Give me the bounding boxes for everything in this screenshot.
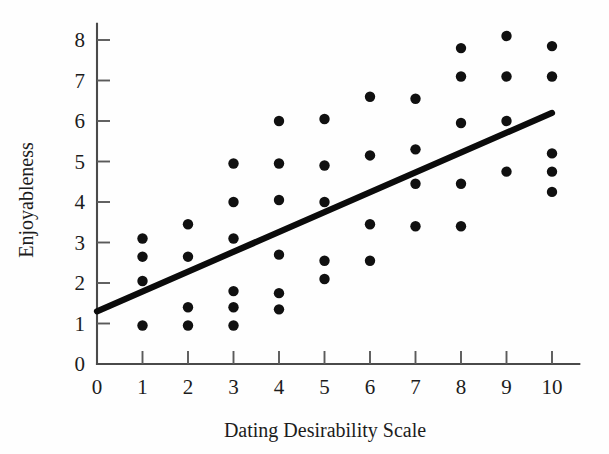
y-tick-label: 8 <box>75 28 86 52</box>
x-tick-label: 9 <box>501 375 512 399</box>
x-tick-label: 10 <box>542 375 563 399</box>
x-tick-label: 1 <box>137 375 148 399</box>
data-point <box>547 166 557 176</box>
data-point <box>228 320 238 330</box>
plot-canvas: 012345678 012345678910 Dating Desirabili… <box>0 0 609 454</box>
data-point <box>137 320 147 330</box>
data-point <box>410 144 420 154</box>
x-axis-ticks: 012345678910 <box>92 351 563 399</box>
x-tick-label: 5 <box>319 375 330 399</box>
data-point <box>547 187 557 197</box>
data-point <box>319 160 329 170</box>
data-point <box>547 41 557 51</box>
y-tick-label: 0 <box>75 352 86 376</box>
x-tick-label: 6 <box>365 375 376 399</box>
y-tick-label: 1 <box>75 312 86 336</box>
data-point <box>228 302 238 312</box>
data-point <box>319 274 329 284</box>
data-point <box>274 249 284 259</box>
data-point <box>228 286 238 296</box>
data-point <box>547 71 557 81</box>
x-tick-label: 7 <box>410 375 421 399</box>
data-point <box>456 71 466 81</box>
data-point <box>137 233 147 243</box>
data-point <box>319 197 329 207</box>
data-point <box>501 31 511 41</box>
data-point <box>228 158 238 168</box>
data-point <box>501 166 511 176</box>
x-tick-label: 3 <box>228 375 239 399</box>
data-point <box>456 118 466 128</box>
data-point <box>319 114 329 124</box>
data-point <box>410 179 420 189</box>
data-point <box>228 197 238 207</box>
data-point <box>547 148 557 158</box>
data-point <box>183 251 193 261</box>
data-point <box>274 116 284 126</box>
data-point <box>456 179 466 189</box>
data-point <box>410 94 420 104</box>
data-point <box>365 92 375 102</box>
y-tick-label: 6 <box>75 109 86 133</box>
data-point <box>274 158 284 168</box>
y-tick-label: 7 <box>75 69 86 93</box>
data-point <box>274 288 284 298</box>
data-point <box>274 304 284 314</box>
data-point <box>456 43 466 53</box>
data-point <box>501 71 511 81</box>
data-point <box>365 219 375 229</box>
x-axis-title: Dating Desirability Scale <box>224 419 426 442</box>
data-point <box>137 276 147 286</box>
data-point <box>228 233 238 243</box>
data-point <box>183 219 193 229</box>
y-axis-ticks: 012345678 <box>75 28 111 376</box>
data-point <box>410 221 420 231</box>
x-tick-label: 8 <box>456 375 467 399</box>
data-point <box>319 256 329 266</box>
data-point <box>365 150 375 160</box>
data-point <box>365 256 375 266</box>
y-tick-label: 5 <box>75 150 86 174</box>
y-tick-label: 4 <box>75 190 86 214</box>
data-point <box>501 116 511 126</box>
data-point <box>183 320 193 330</box>
data-point <box>137 251 147 261</box>
y-tick-label: 2 <box>75 271 86 295</box>
data-point <box>183 302 193 312</box>
y-axis-title: Enjoyableness <box>15 142 38 258</box>
x-tick-label: 0 <box>92 375 103 399</box>
data-points-group <box>137 31 557 331</box>
scatter-plot-figure: 012345678 012345678910 Dating Desirabili… <box>0 0 609 454</box>
data-point <box>274 195 284 205</box>
y-tick-label: 3 <box>75 231 86 255</box>
x-tick-label: 4 <box>274 375 285 399</box>
x-tick-label: 2 <box>183 375 194 399</box>
data-point <box>456 221 466 231</box>
